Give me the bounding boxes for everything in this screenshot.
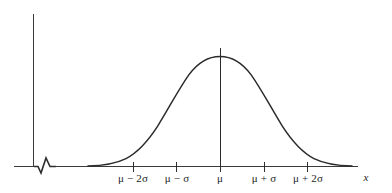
x-tick-label-mu-minus-sigma: μ − σ [165,173,190,184]
x-tick-label-mu-minus-2sigma: μ − 2σ [118,173,148,184]
axis-break-icon [34,158,56,173]
x-axis-label: x [364,172,369,183]
x-tick-label-mu-plus-2sigma: μ + 2σ [293,173,323,184]
x-tick-label-mu-plus-sigma: μ + σ [252,173,277,184]
normal-curve-plot [0,0,392,193]
x-tick-label-mu: μ [217,173,223,184]
normal-distribution-figure: μ − 2σ μ − σ μ μ + σ μ + 2σ x [0,0,392,193]
